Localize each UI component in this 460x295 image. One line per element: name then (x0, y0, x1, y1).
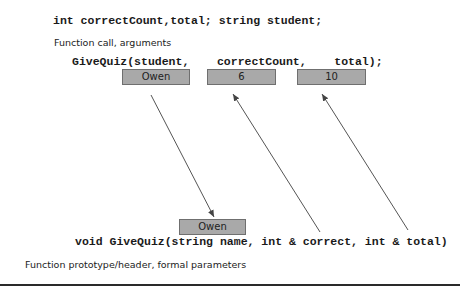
bottom-divider (0, 284, 460, 286)
function-header-code: void GiveQuiz(string name, int & correct… (75, 235, 448, 248)
value-copy-arrow (151, 95, 214, 217)
reference-arrow-correct (233, 94, 320, 232)
param-box-name: Owen (179, 219, 246, 235)
reference-arrow-total (322, 94, 408, 230)
header-caption: Function prototype/header, formal parame… (25, 259, 246, 270)
parameter-passing-diagram: int correctCount,total; string student; … (0, 0, 460, 295)
arrows-layer (0, 0, 460, 295)
